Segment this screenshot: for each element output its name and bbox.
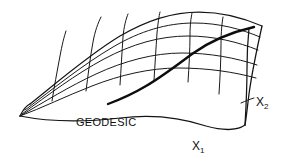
- mesh-row-line: [20, 68, 256, 116]
- mesh-row-line: [20, 53, 257, 116]
- mesh-row-line: [22, 36, 258, 114]
- x1-subscript: 1: [200, 146, 205, 155]
- x1-label: X: [192, 139, 200, 153]
- x2-label: X: [256, 95, 264, 109]
- x2-subscript: 2: [264, 102, 269, 111]
- mesh-column-line: [154, 12, 160, 80]
- mesh-columns: [52, 12, 223, 101]
- geodesic-label: GEODESIC: [76, 116, 136, 128]
- surface-diagram-svg: GEODESIC X 1 X 2: [0, 0, 296, 159]
- surface-boundary: [20, 12, 262, 129]
- geodesic-figure: GEODESIC X 1 X 2: [0, 0, 296, 159]
